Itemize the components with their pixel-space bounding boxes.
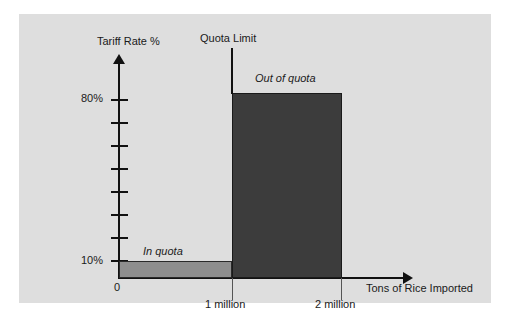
y-axis-arrow-icon bbox=[113, 54, 125, 64]
x-axis-title: Tons of Rice Imported bbox=[366, 283, 473, 294]
bar-out-of-quota bbox=[232, 93, 342, 278]
y-axis-tick-minor-6 bbox=[111, 237, 128, 239]
x-axis-tick-label-1-million: 1 million bbox=[205, 299, 245, 310]
y-axis-tick-80 bbox=[111, 99, 128, 101]
y-axis-tick-minor-3 bbox=[111, 168, 128, 170]
x-axis-tick-2-million bbox=[341, 278, 342, 300]
quota-limit-label: Quota Limit bbox=[200, 33, 256, 44]
y-axis-tick-minor-2 bbox=[111, 145, 128, 147]
y-axis-tick-label-10: 10% bbox=[81, 255, 103, 266]
y-axis-tick-minor-4 bbox=[111, 191, 128, 193]
x-axis-tick-label-2-million: 2 million bbox=[315, 299, 355, 310]
out-of-quota-label: Out of quota bbox=[255, 73, 316, 84]
y-axis-line bbox=[118, 62, 120, 279]
in-quota-label: In quota bbox=[143, 246, 183, 257]
bar-in-quota bbox=[119, 261, 232, 278]
origin-label: 0 bbox=[114, 282, 120, 293]
x-axis-tick-1-million bbox=[232, 278, 233, 300]
y-axis-tick-label-80: 80% bbox=[81, 93, 103, 104]
tariff-rate-quota-figure: Tariff Rate % Tons of Rice Imported Quot… bbox=[0, 0, 506, 318]
quota-limit-line bbox=[231, 48, 233, 94]
y-axis-tick-minor-5 bbox=[111, 214, 128, 216]
chart-panel: Tariff Rate % Tons of Rice Imported Quot… bbox=[19, 14, 491, 303]
y-axis-title: Tariff Rate % bbox=[97, 36, 160, 47]
y-axis-tick-minor-1 bbox=[111, 122, 128, 124]
